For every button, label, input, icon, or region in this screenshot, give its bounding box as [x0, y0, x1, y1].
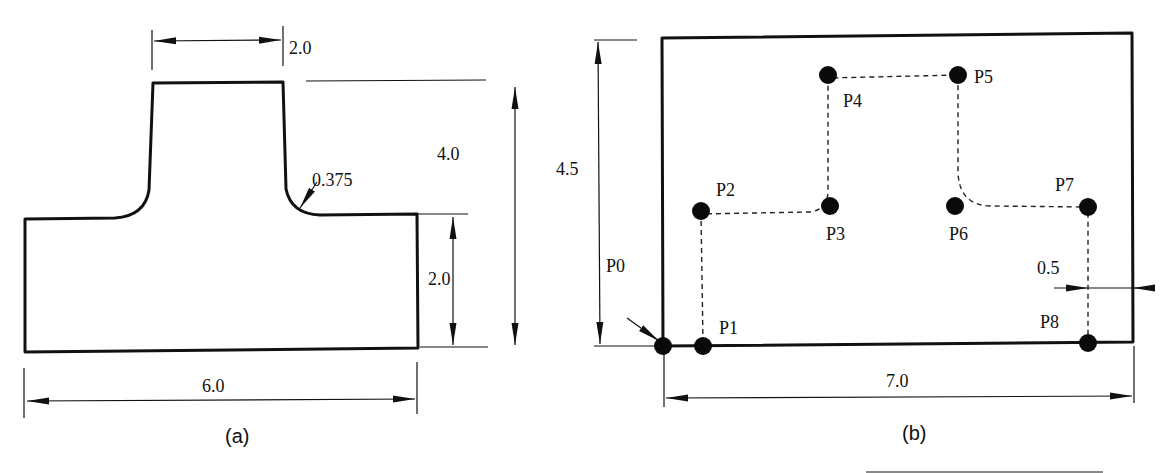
dim-top-width-label: 2.0 [289, 38, 312, 58]
point-p7 [1079, 198, 1097, 216]
dim-fillet-radius-label: 0.375 [312, 170, 353, 190]
label-p7: P7 [1055, 175, 1074, 195]
dimension-arrow-width [666, 396, 1132, 398]
point-p0 [654, 337, 672, 355]
dimension-arrow-top-width [154, 40, 281, 41]
label-p2: P2 [716, 180, 735, 200]
label-p3: P3 [826, 224, 845, 244]
dim-base-height-label: 2.0 [428, 269, 451, 289]
p0-leader-arrow [627, 318, 659, 341]
label-p1: P1 [719, 318, 738, 338]
dim-total-height-label: 4.0 [437, 144, 460, 164]
part-outline [25, 82, 418, 352]
point-p4 [819, 66, 837, 84]
dim-height-label: 4.5 [556, 159, 579, 179]
point-p2 [692, 202, 710, 220]
point-p3 [821, 197, 839, 215]
label-p0: P0 [606, 256, 625, 276]
dimension-arrow-height [598, 42, 600, 344]
dim-width-label: 7.0 [886, 371, 909, 391]
figure-b: 4.5 7.0 0.5 P0 P1 P2 P3 P4 P5 P6 P7 [556, 33, 1153, 472]
label-p8: P8 [1040, 312, 1059, 332]
point-p8 [1079, 334, 1097, 352]
label-p4: P4 [843, 91, 862, 111]
dim-base-width-label: 6.0 [202, 376, 225, 396]
dim-offset-label: 0.5 [1037, 258, 1060, 278]
drawing-canvas: 2.0 4.0 2.0 0.375 6.0 (a) 4.5 7.0 [0, 0, 1166, 473]
label-p5: P5 [974, 67, 993, 87]
dimension-arrow-base-width [27, 399, 415, 401]
point-p5 [949, 66, 967, 84]
tool-path [701, 75, 1088, 343]
caption-b: (b) [902, 422, 926, 444]
figure-a: 2.0 4.0 2.0 0.375 6.0 (a) [24, 26, 515, 447]
point-p6 [946, 197, 964, 215]
extension-line [306, 80, 486, 81]
caption-a: (a) [225, 425, 249, 447]
label-p6: P6 [949, 224, 968, 244]
point-p1 [694, 337, 712, 355]
